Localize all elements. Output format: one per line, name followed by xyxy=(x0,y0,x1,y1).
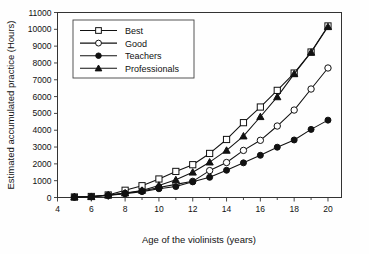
data-point-marker xyxy=(274,123,280,129)
data-point-marker xyxy=(223,159,229,165)
y-axis-title: Estimated accumulated practice (Hours) xyxy=(5,21,16,190)
y-tick-label: 5000 xyxy=(33,108,52,118)
x-tick-label: 14 xyxy=(222,204,232,214)
x-axis-title: Age of the violinists (years) xyxy=(142,234,256,245)
data-point-marker xyxy=(189,169,196,175)
data-point-marker xyxy=(172,176,179,182)
chart-figure: 0100020003000400050006000700080009000100… xyxy=(0,0,369,254)
x-tick-label: 18 xyxy=(289,204,299,214)
y-axis: 0100020003000400050006000700080009000100… xyxy=(28,8,58,203)
data-point-marker xyxy=(190,179,196,185)
data-point-marker xyxy=(325,65,331,71)
x-tick-label: 4 xyxy=(55,204,60,214)
y-tick-label: 2000 xyxy=(33,159,52,169)
data-point-marker xyxy=(240,120,246,126)
legend-label: Professionals xyxy=(125,64,180,74)
y-tick-label: 10000 xyxy=(28,24,52,34)
series-line xyxy=(74,68,328,197)
x-tick-label: 20 xyxy=(323,204,333,214)
data-point-marker xyxy=(274,144,280,150)
data-point-marker xyxy=(291,137,297,143)
x-tick-label: 10 xyxy=(154,204,164,214)
x-tick-label: 12 xyxy=(188,204,198,214)
y-tick-label: 11000 xyxy=(28,8,51,18)
data-point-marker xyxy=(206,159,213,165)
data-point-marker xyxy=(190,162,196,168)
data-point-marker xyxy=(96,40,102,46)
data-point-marker xyxy=(257,104,263,110)
data-point-marker xyxy=(224,167,230,173)
data-point-marker xyxy=(291,107,297,113)
y-tick-label: 9000 xyxy=(33,41,52,51)
legend-label: Best xyxy=(125,26,144,36)
data-point-marker xyxy=(308,126,314,132)
data-point-marker xyxy=(308,86,314,92)
chart-legend: BestGoodTeachersProfessionals xyxy=(73,20,194,78)
data-point-marker xyxy=(240,160,246,166)
data-point-marker xyxy=(173,168,179,174)
data-point-marker xyxy=(96,53,102,59)
data-point-marker xyxy=(257,152,263,158)
data-point-marker xyxy=(96,28,102,34)
data-point-marker xyxy=(207,150,213,156)
legend-label: Teachers xyxy=(125,51,162,61)
y-tick-label: 7000 xyxy=(33,75,52,85)
data-point-marker xyxy=(257,137,263,143)
y-tick-label: 6000 xyxy=(33,92,52,102)
data-point-marker xyxy=(206,167,212,173)
data-point-marker xyxy=(223,136,229,142)
practice-hours-line-chart: 0100020003000400050006000700080009000100… xyxy=(0,0,369,254)
y-tick-label: 4000 xyxy=(33,125,52,135)
y-tick-label: 8000 xyxy=(33,58,52,68)
data-point-marker xyxy=(325,117,331,123)
legend-label: Good xyxy=(125,39,147,49)
data-point-marker xyxy=(240,147,246,153)
data-point-marker xyxy=(207,174,213,180)
x-tick-label: 8 xyxy=(123,204,128,214)
x-tick-label: 6 xyxy=(89,204,94,214)
x-axis: 468101214161820 xyxy=(55,198,333,214)
y-tick-label: 0 xyxy=(47,193,52,203)
y-tick-label: 3000 xyxy=(33,142,52,152)
x-tick-label: 16 xyxy=(256,204,266,214)
data-point-marker xyxy=(173,184,179,190)
y-tick-label: 1000 xyxy=(33,176,52,186)
